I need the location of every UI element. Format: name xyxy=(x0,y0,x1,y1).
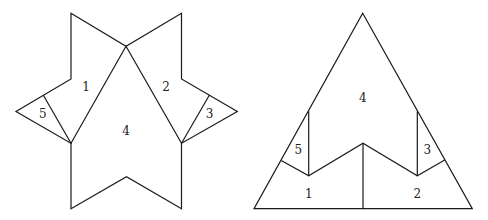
piece-label-5: 5 xyxy=(39,107,47,121)
piece-label-2: 2 xyxy=(413,187,421,201)
piece-label-3: 3 xyxy=(206,107,214,121)
piece-label-4: 4 xyxy=(359,91,367,105)
hexagram-outline xyxy=(16,13,237,208)
piece-label-5: 5 xyxy=(294,143,302,157)
cut-line xyxy=(44,96,72,144)
cut-line xyxy=(71,46,126,143)
piece-label-1: 1 xyxy=(82,80,90,94)
piece-label-4: 4 xyxy=(122,124,130,138)
triangle-assembly-figure: 45312 xyxy=(254,13,472,208)
cut-line xyxy=(126,46,182,143)
hexagram-dissection-figure: 12345 xyxy=(16,13,237,208)
hexagram-piece-labels: 12345 xyxy=(39,80,213,138)
piece-label-1: 1 xyxy=(305,187,313,201)
piece-label-3: 3 xyxy=(423,143,431,157)
piece-label-2: 2 xyxy=(162,80,170,94)
diagram-canvas: 12345 45312 xyxy=(0,0,488,220)
